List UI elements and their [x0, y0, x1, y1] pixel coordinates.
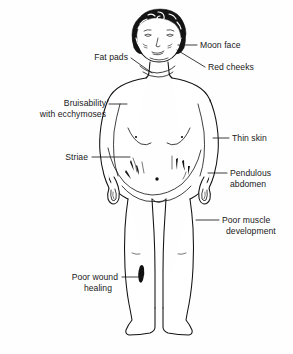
label-poor-wound-healing-line2[interactable]: healing: [84, 283, 112, 293]
head: [132, 9, 186, 62]
leader-red-cheeks: [177, 50, 205, 67]
label-bruisability-line1[interactable]: Bruisability: [64, 98, 107, 108]
label-pendulous-abdomen-line2[interactable]: abdomen: [230, 179, 266, 189]
nipple-left: [135, 136, 137, 138]
striae-marks: [125, 156, 190, 179]
label-bruisability-line2[interactable]: with ecchymoses: [39, 109, 106, 119]
label-poor-muscle-line1[interactable]: Poor muscle: [222, 215, 270, 225]
label-red-cheeks[interactable]: Red cheeks: [208, 62, 254, 72]
torso-group: [100, 62, 219, 204]
clinical-features-figure: Moon face Red cheeks Fat pads Bruisabili…: [0, 0, 293, 354]
illustration-container: Moon face Red cheeks Fat pads Bruisabili…: [0, 0, 293, 354]
labels-group: Moon face Red cheeks Fat pads Bruisabili…: [39, 40, 277, 293]
navel: [155, 177, 158, 180]
nipple-right: [181, 136, 183, 138]
legs: [125, 199, 194, 335]
label-fat-pads[interactable]: Fat pads: [94, 52, 128, 62]
label-striae[interactable]: Striae: [65, 152, 88, 162]
label-moon-face[interactable]: Moon face: [200, 40, 241, 50]
label-poor-wound-healing-line1[interactable]: Poor wound: [72, 272, 119, 282]
label-thin-skin[interactable]: Thin skin: [232, 133, 267, 143]
label-pendulous-abdomen-line1[interactable]: Pendulous: [230, 168, 271, 178]
label-poor-muscle-line2[interactable]: development: [226, 226, 276, 236]
